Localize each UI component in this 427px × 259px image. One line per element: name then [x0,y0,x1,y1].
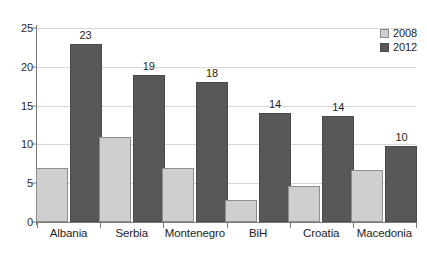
y-tick-label: 15 [21,100,33,112]
y-tick-label: 20 [21,61,33,73]
legend-item-2008[interactable]: 2008 [380,27,417,39]
bar-montenegro-2012 [196,82,228,222]
bar-group: 18 [163,28,226,222]
x-tick-label: Montenegro [163,223,226,245]
bar-albania-2008 [36,168,68,222]
bar-value-label: 14 [332,101,344,113]
bar-serbia-2008 [99,137,131,222]
bar-macedonia-2012 [385,146,417,222]
x-tick-mark [290,223,291,228]
bar-value-label: 10 [395,131,407,143]
y-tick-label: 25 [21,22,33,34]
bar-serbia-2012 [133,75,165,222]
bar-value-label: 18 [206,67,218,79]
plot-area: 0510152025 231918141410 [37,28,416,222]
bar-albania-2012 [70,44,102,222]
bar-bih-2012 [259,113,291,222]
bar-group: 10 [353,28,416,222]
x-axis-end-tick [416,223,417,228]
bar-group: 23 [37,28,100,222]
bar-group: 14 [290,28,353,222]
chart-legend: 20082012 [380,27,417,53]
bar-croatia-2008 [288,186,320,222]
legend-label: 2008 [393,27,417,39]
bar-macedonia-2008 [351,170,383,222]
bar-croatia-2012 [322,116,354,222]
x-tick-mark [163,223,164,228]
bar-montenegro-2008 [162,168,194,222]
bar-value-label: 23 [80,29,92,41]
x-axis-end-tick [37,223,38,228]
bar-value-label: 19 [143,60,155,72]
x-axis-categories: AlbaniaSerbiaMontenegroBiHCroatiaMacedon… [37,223,417,245]
legend-swatch-icon [380,43,389,52]
x-tick-label: Macedonia [353,223,416,245]
bar-value-label: 14 [269,98,281,110]
x-tick-mark [100,223,101,228]
x-tick-mark [353,223,354,228]
x-tick-label: BiH [227,223,290,245]
legend-label: 2012 [393,41,417,53]
y-tick-label: 10 [21,138,33,150]
legend-item-2012[interactable]: 2012 [380,41,417,53]
y-tick-label: 0 [27,216,33,228]
x-tick-label: Albania [37,223,100,245]
bar-group: 14 [227,28,290,222]
x-tick-label: Croatia [290,223,353,245]
x-tick-label: Serbia [100,223,163,245]
y-tick-label: 5 [27,177,33,189]
bar-group: 19 [100,28,163,222]
x-tick-mark [227,223,228,228]
legend-swatch-icon [380,29,389,38]
bar-bih-2008 [225,200,257,222]
bar-chart: 0510152025 231918141410 AlbaniaSerbiaMon… [0,0,427,259]
